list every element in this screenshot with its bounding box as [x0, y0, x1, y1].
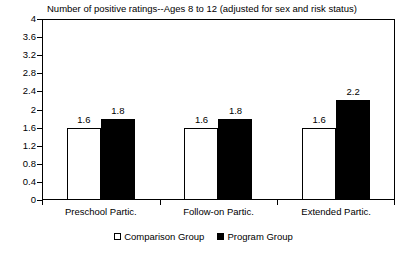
chart-title: Number of positive ratings--Ages 8 to 12… — [47, 3, 357, 15]
bar-group: 1.61.8 — [42, 19, 160, 200]
bar-group: 1.62.2 — [277, 19, 395, 200]
bar-value-label: 1.6 — [302, 115, 336, 125]
y-axis-tick-label: 1.6 — [0, 123, 36, 133]
x-axis-tick-mark — [42, 200, 43, 205]
x-axis-tick-mark — [160, 200, 161, 205]
bar-group: 1.61.8 — [160, 19, 278, 200]
bar-comparison[interactable] — [184, 128, 218, 200]
y-axis-tick-label: 0 — [0, 195, 36, 205]
y-axis-tick-label: 1.2 — [0, 141, 36, 151]
y-axis-tick-label: 4 — [0, 14, 36, 24]
legend-swatch-icon — [217, 233, 224, 240]
bar-program[interactable] — [218, 119, 252, 200]
legend-item[interactable]: Comparison Group — [114, 231, 204, 242]
x-axis-tick-mark — [277, 200, 278, 205]
legend-label: Comparison Group — [124, 231, 204, 242]
bar-value-label: 1.8 — [218, 106, 252, 116]
bar-comparison[interactable] — [67, 128, 101, 200]
bar-value-label: 1.6 — [184, 115, 218, 125]
bar-program[interactable] — [101, 119, 135, 200]
y-axis: 43.63.22.82.421.61.20.80.40 — [0, 19, 36, 200]
bar-comparison[interactable] — [302, 128, 336, 200]
bar-value-label: 2.2 — [336, 87, 370, 97]
x-axis-category-label: Preschool Partic. — [65, 206, 137, 218]
legend-item[interactable]: Program Group — [217, 231, 292, 242]
y-axis-tick-label: 2.4 — [0, 86, 36, 96]
bar-program[interactable] — [336, 100, 370, 200]
y-axis-tick-label: 0.4 — [0, 177, 36, 187]
y-axis-tick-label: 2 — [0, 105, 36, 115]
chart-legend: Comparison GroupProgram Group — [0, 231, 407, 242]
x-axis-labels: Preschool Partic.Follow-on Partic.Extend… — [42, 206, 395, 222]
x-axis-category-label: Follow-on Partic. — [183, 206, 254, 218]
y-axis-tick-label: 3.6 — [0, 32, 36, 42]
bar-value-label: 1.6 — [67, 115, 101, 125]
bar-value-label: 1.8 — [101, 106, 135, 116]
y-axis-tick-label: 3.2 — [0, 50, 36, 60]
bars-layer: 1.61.81.61.81.62.2 — [42, 19, 395, 200]
legend-label: Program Group — [227, 231, 292, 242]
y-axis-tick-label: 0.8 — [0, 159, 36, 169]
x-axis-category-label: Extended Partic. — [301, 206, 371, 218]
bar-chart: Number of positive ratings--Ages 8 to 12… — [0, 0, 407, 254]
y-axis-tick-label: 2.8 — [0, 68, 36, 78]
legend-swatch-icon — [114, 233, 121, 240]
x-axis-tick-mark — [394, 200, 395, 205]
